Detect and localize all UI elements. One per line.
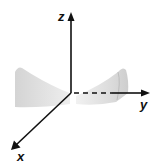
- y-axis-arrowhead: [141, 90, 150, 97]
- diagram-canvas: z y x: [0, 0, 161, 167]
- y-axis-label: y: [139, 97, 148, 112]
- z-axis-arrowhead: [68, 12, 75, 21]
- surface-right-lobe: [76, 68, 128, 104]
- x-axis-label: x: [16, 149, 25, 164]
- z-axis-label: z: [57, 9, 65, 24]
